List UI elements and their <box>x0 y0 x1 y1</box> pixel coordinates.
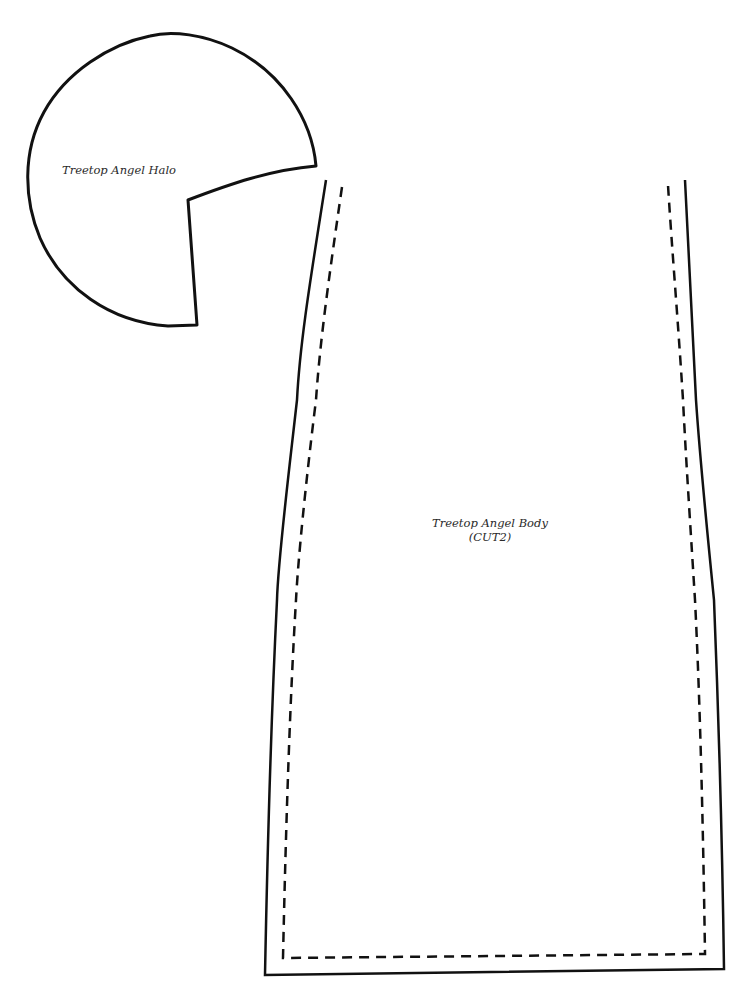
body-label: Treetop Angel Body (CUT2) <box>420 516 560 544</box>
halo-label: Treetop Angel Halo <box>62 163 176 177</box>
body-cut-outline <box>265 180 724 975</box>
body-label-title: Treetop Angel Body <box>420 516 560 530</box>
body-label-cut-count: (CUT2) <box>420 530 560 544</box>
body-seam-line <box>283 185 705 958</box>
pattern-sheet <box>0 0 739 991</box>
halo-cut-outline <box>28 33 316 326</box>
